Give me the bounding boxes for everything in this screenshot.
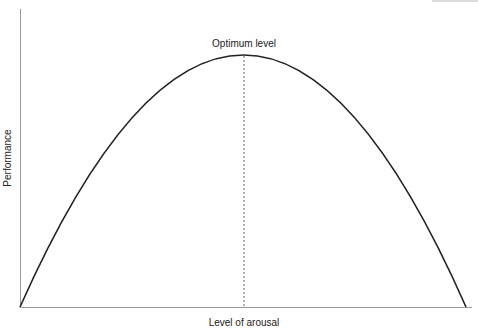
inverted-u-chart: Optimum level Level of arousal Performan…: [0, 0, 478, 333]
y-axis-label: Performance: [2, 129, 13, 187]
optimum-label: Optimum level: [212, 38, 276, 49]
performance-curve: [20, 55, 466, 307]
x-axis-label: Level of arousal: [209, 317, 280, 328]
